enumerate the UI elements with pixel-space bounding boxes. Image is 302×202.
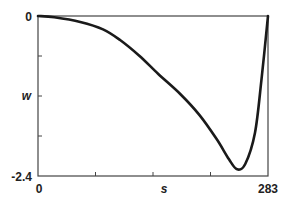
y-tick-label-bottom: -2.4	[11, 170, 32, 184]
plot-frame	[38, 16, 268, 176]
x-axis-label: s	[161, 182, 168, 196]
chart: 0 -2.4 0 283 s w	[0, 0, 302, 202]
x-tick-label-left: 0	[36, 182, 43, 196]
y-tick-label-top: 0	[25, 10, 32, 24]
y-axis-label: w	[22, 89, 32, 103]
axis-ticks	[38, 56, 211, 176]
x-tick-label-right: 283	[258, 182, 278, 196]
data-line	[38, 16, 268, 170]
